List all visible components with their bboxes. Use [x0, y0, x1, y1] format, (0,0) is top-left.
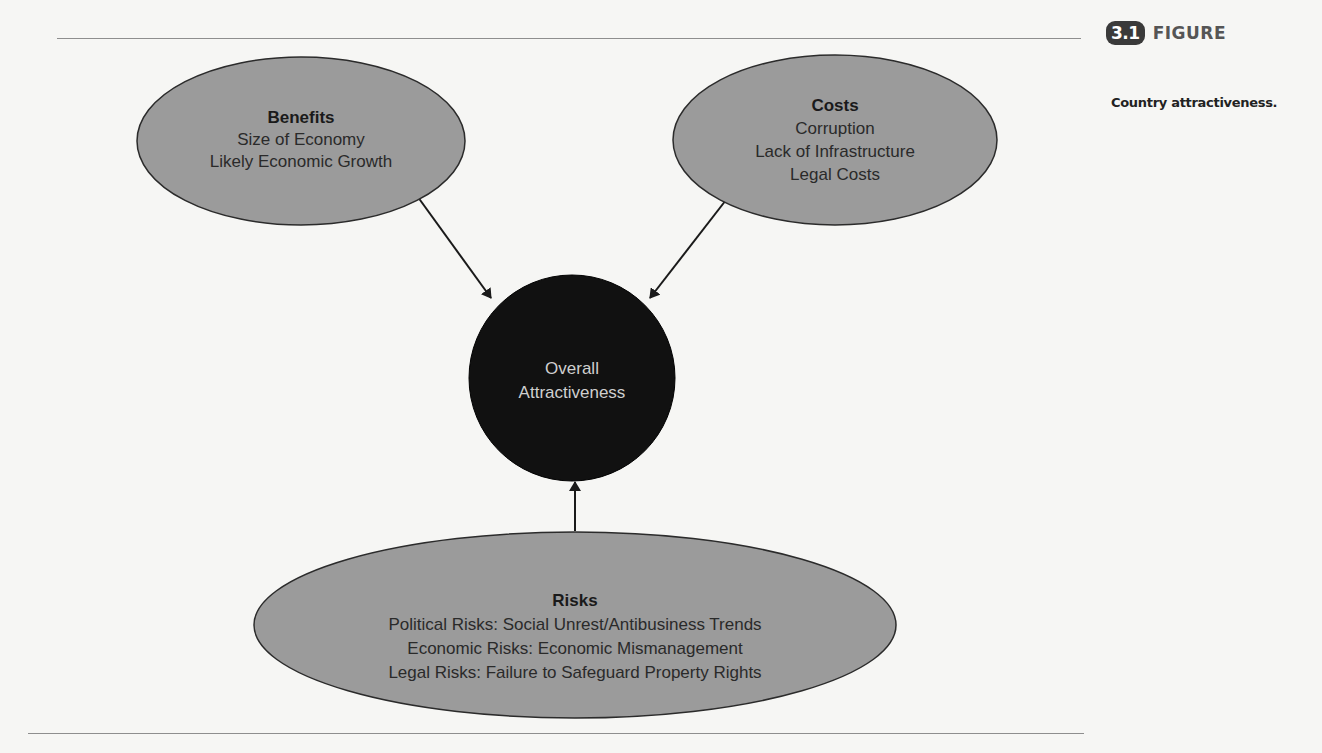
arrow-costs-to-center — [650, 200, 726, 298]
costs-item: Corruption — [795, 119, 874, 138]
risks-item: Political Risks: Social Unrest/Antibusin… — [388, 615, 761, 634]
costs-item: Legal Costs — [790, 165, 880, 184]
costs-node: Costs Corruption Lack of Infrastructure … — [673, 55, 997, 225]
country-attractiveness-diagram: Benefits Size of Economy Likely Economic… — [0, 0, 1322, 753]
risks-item: Legal Risks: Failure to Safeguard Proper… — [388, 663, 761, 682]
costs-item: Lack of Infrastructure — [755, 142, 915, 161]
arrow-benefits-to-center — [415, 193, 491, 298]
benefits-node: Benefits Size of Economy Likely Economic… — [137, 57, 465, 225]
risks-node: Risks Political Risks: Social Unrest/Ant… — [254, 532, 896, 718]
benefits-item: Size of Economy — [237, 130, 365, 149]
center-label-line: Overall — [545, 359, 599, 378]
costs-title: Costs — [811, 96, 858, 115]
risks-title: Risks — [552, 591, 597, 610]
center-label-line: Attractiveness — [519, 383, 626, 402]
overall-attractiveness-node: Overall Attractiveness — [469, 275, 675, 481]
benefits-title: Benefits — [267, 108, 334, 127]
risks-item: Economic Risks: Economic Mismanagement — [407, 639, 743, 658]
benefits-item: Likely Economic Growth — [210, 152, 392, 171]
